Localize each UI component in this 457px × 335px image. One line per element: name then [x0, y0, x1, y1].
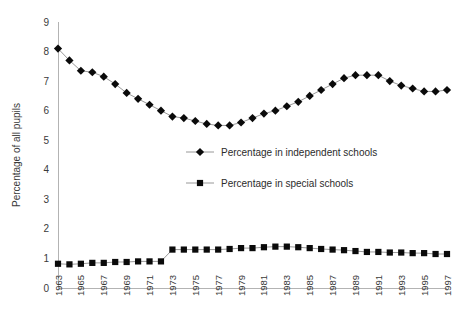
data-point-square-marker: [215, 246, 221, 252]
data-point-square-marker: [295, 244, 301, 250]
y-axis-title: Percentage of all pupils: [11, 103, 22, 207]
data-point-square-marker: [421, 250, 427, 256]
data-point-diamond-marker: [100, 73, 108, 81]
x-tick-label: 1997: [442, 275, 453, 296]
x-tick-label: 1993: [396, 275, 407, 296]
data-point-square-marker: [192, 246, 198, 252]
data-point-diamond-marker: [409, 84, 417, 92]
data-point-square-marker: [112, 259, 118, 265]
data-point-square-marker: [181, 246, 187, 252]
x-tick-label: 1967: [98, 275, 109, 296]
x-tick-label: 1979: [236, 275, 247, 296]
data-point-square-marker: [329, 246, 335, 252]
data-point-diamond-marker: [431, 87, 439, 95]
x-tick-label: 1983: [281, 275, 292, 296]
data-point-diamond-marker: [351, 71, 359, 79]
x-tick-label: 1991: [373, 275, 384, 296]
y-tick-label: 8: [43, 46, 49, 57]
y-tick-label: 0: [43, 283, 49, 294]
data-point-diamond-marker: [306, 92, 314, 100]
data-point-diamond-marker: [111, 80, 119, 88]
y-tick-label: 5: [43, 135, 49, 146]
data-point-square-marker: [89, 260, 95, 266]
data-point-diamond-marker: [397, 81, 405, 89]
data-point-square-marker: [66, 261, 72, 267]
legend-item-1: Percentage in independent schools: [186, 147, 377, 158]
data-point-square-marker: [341, 247, 347, 253]
data-point-square-marker: [249, 245, 255, 251]
data-point-diamond-marker: [340, 74, 348, 82]
legend-item-2: Percentage in special schools: [186, 178, 353, 189]
x-tick-label: 1981: [258, 275, 269, 296]
data-point-square-marker: [261, 244, 267, 250]
data-point-diamond-marker: [157, 107, 165, 115]
data-point-square-marker: [352, 248, 358, 254]
legend-diamond-marker: [196, 148, 204, 156]
y-tick-label: 2: [43, 223, 49, 234]
data-point-square-marker: [318, 246, 324, 252]
legend-square-marker: [197, 180, 203, 186]
data-point-square-marker: [78, 261, 84, 267]
data-point-square-marker: [158, 258, 164, 264]
data-point-diamond-marker: [271, 107, 279, 115]
data-point-square-marker: [124, 259, 130, 265]
data-point-diamond-marker: [226, 121, 234, 129]
x-tick-label: 1977: [213, 275, 224, 296]
series-1: [54, 45, 451, 130]
data-point-diamond-marker: [123, 89, 131, 97]
y-tick-label: 9: [43, 17, 49, 28]
y-axis: 0123456789: [43, 17, 58, 294]
y-tick-label: 1: [43, 253, 49, 264]
line-chart: 0123456789 19631965196719691971197319751…: [0, 0, 457, 335]
data-point-square-marker: [432, 251, 438, 257]
data-point-diamond-marker: [134, 95, 142, 103]
x-tick-label: 1989: [350, 275, 361, 296]
data-point-square-marker: [398, 249, 404, 255]
data-point-diamond-marker: [145, 101, 153, 109]
data-point-diamond-marker: [88, 68, 96, 76]
y-tick-label: 3: [43, 194, 49, 205]
data-point-square-marker: [169, 246, 175, 252]
x-tick-label: 1995: [419, 275, 430, 296]
data-point-diamond-marker: [328, 80, 336, 88]
x-tick-label: 1987: [327, 275, 338, 296]
chart-container: 0123456789 19631965196719691971197319751…: [0, 0, 457, 335]
data-point-diamond-marker: [374, 71, 382, 79]
data-point-square-marker: [238, 245, 244, 251]
data-point-diamond-marker: [386, 77, 394, 85]
x-tick-label: 1969: [121, 275, 132, 296]
data-point-diamond-marker: [317, 86, 325, 94]
x-tick-label: 1971: [144, 275, 155, 296]
data-point-diamond-marker: [168, 112, 176, 120]
legend-label: Percentage in independent schools: [221, 147, 377, 158]
y-tick-label: 7: [43, 76, 49, 87]
data-point-square-marker: [307, 245, 313, 251]
data-point-square-marker: [227, 246, 233, 252]
x-tick-label: 1985: [304, 275, 315, 296]
data-point-diamond-marker: [180, 114, 188, 122]
legend-label: Percentage in special schools: [221, 178, 353, 189]
data-point-diamond-marker: [420, 87, 428, 95]
data-point-diamond-marker: [237, 118, 245, 126]
data-point-square-marker: [204, 246, 210, 252]
series-2: [55, 244, 450, 268]
data-point-square-marker: [375, 249, 381, 255]
data-point-square-marker: [101, 260, 107, 266]
data-point-square-marker: [284, 244, 290, 250]
data-point-square-marker: [55, 261, 61, 267]
data-point-diamond-marker: [443, 86, 451, 94]
x-tick-label: 1975: [190, 275, 201, 296]
x-axis: 1963196519671969197119731975197719791981…: [53, 275, 453, 296]
data-point-diamond-marker: [260, 110, 268, 118]
chart-legend: Percentage in independent schoolsPercent…: [186, 147, 377, 189]
data-point-diamond-marker: [363, 71, 371, 79]
x-tick-label: 1973: [167, 275, 178, 296]
x-tick-label: 1963: [53, 275, 64, 296]
data-point-square-marker: [444, 251, 450, 257]
data-point-square-marker: [410, 250, 416, 256]
data-point-diamond-marker: [248, 114, 256, 122]
data-point-square-marker: [387, 249, 393, 255]
data-point-square-marker: [364, 249, 370, 255]
data-point-diamond-marker: [203, 120, 211, 128]
data-point-diamond-marker: [191, 117, 199, 125]
